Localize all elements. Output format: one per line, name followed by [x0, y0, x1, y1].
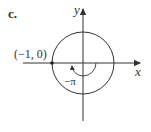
diagram-canvas: c. x y (−1, 0) −π	[0, 0, 151, 132]
unit-circle-figure: c. x y (−1, 0) −π	[0, 0, 151, 132]
part-label: c.	[8, 6, 17, 21]
point-marker	[50, 61, 54, 65]
y-axis-label: y	[72, 2, 80, 17]
angle-label: −π	[64, 75, 76, 87]
x-axis-label: x	[134, 64, 141, 79]
point-label: (−1, 0)	[14, 47, 47, 61]
